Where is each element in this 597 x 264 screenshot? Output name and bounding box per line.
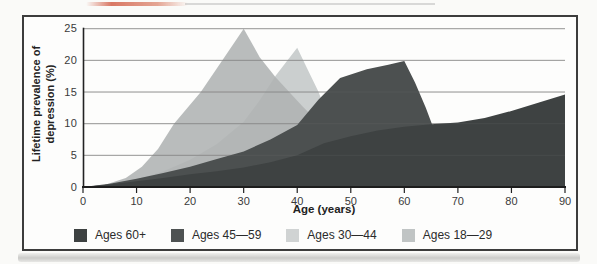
chart-labels: Lifetime prevalence of depression (%) Ag… bbox=[0, 0, 597, 264]
legend-label: Ages 30—44 bbox=[307, 228, 376, 242]
x-tick-label: 30 bbox=[231, 195, 257, 207]
y-tick-label: 15 bbox=[55, 86, 77, 98]
x-tick-label: 0 bbox=[70, 195, 96, 207]
legend-label: Ages 45—59 bbox=[192, 228, 261, 242]
legend-swatch bbox=[286, 229, 299, 242]
x-tick-label: 80 bbox=[498, 195, 524, 207]
legend-swatch bbox=[74, 229, 87, 242]
y-tick-label: 25 bbox=[55, 22, 77, 34]
chart-legend: Ages 60+Ages 45—59Ages 30—44Ages 18—29 bbox=[7, 228, 559, 242]
figure-screenshot: Lifetime prevalence of depression (%) Ag… bbox=[0, 0, 597, 264]
y-tick-label: 5 bbox=[55, 149, 77, 161]
y-tick-label: 0 bbox=[55, 181, 77, 193]
scan-artifact-red-line bbox=[86, 2, 188, 6]
x-tick-label: 90 bbox=[552, 195, 578, 207]
y-axis-title: Lifetime prevalence of depression (%) bbox=[29, 46, 58, 162]
legend-label: Ages 60+ bbox=[95, 228, 146, 242]
x-tick-label: 20 bbox=[177, 195, 203, 207]
y-tick-label: 20 bbox=[55, 54, 77, 66]
legend-swatch bbox=[402, 229, 415, 242]
x-tick-label: 50 bbox=[338, 195, 364, 207]
scan-artifact-gray-line bbox=[185, 3, 435, 5]
y-axis-title-line1: Lifetime prevalence of bbox=[29, 46, 43, 162]
legend-item: Ages 30—44 bbox=[286, 228, 376, 242]
x-tick-label: 10 bbox=[124, 195, 150, 207]
legend-swatch bbox=[171, 229, 184, 242]
x-tick-label: 40 bbox=[284, 195, 310, 207]
scan-shadow bbox=[18, 253, 580, 262]
x-tick-label: 60 bbox=[391, 195, 417, 207]
legend-label: Ages 18—29 bbox=[423, 228, 492, 242]
y-tick-label: 10 bbox=[55, 117, 77, 129]
legend-item: Ages 45—59 bbox=[171, 228, 261, 242]
x-tick-label: 70 bbox=[445, 195, 471, 207]
legend-item: Ages 18—29 bbox=[402, 228, 492, 242]
legend-item: Ages 60+ bbox=[74, 228, 146, 242]
